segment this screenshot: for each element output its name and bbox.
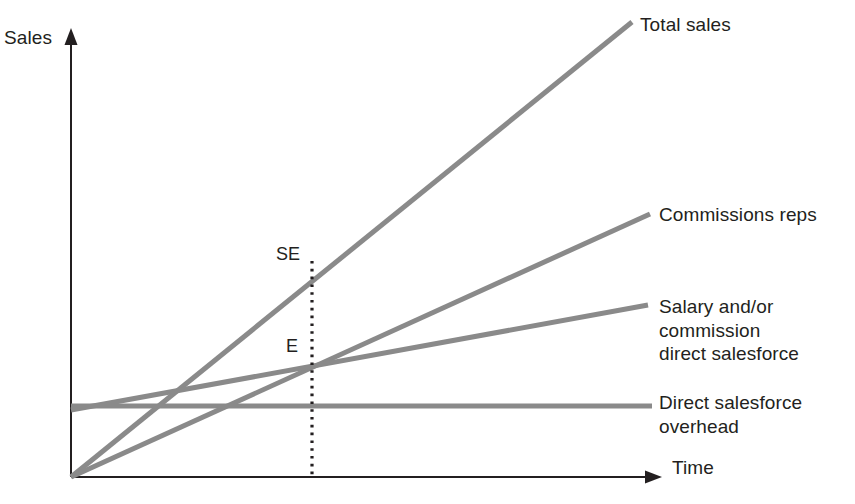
series-line-total-sales: [71, 22, 632, 477]
x-axis-arrowhead: [645, 471, 662, 484]
series-lines-group: [71, 22, 652, 477]
series-label-commissions-reps: Commissions reps: [659, 203, 817, 227]
y-axis-label: Sales: [4, 26, 52, 49]
series-label-salary-commission: Salary and/or commission direct salesfor…: [659, 295, 799, 366]
x-axis-label: Time: [672, 456, 714, 479]
series-label-direct-overhead: Direct salesforce overhead: [659, 391, 802, 438]
annotation-se: SE: [276, 243, 300, 266]
axes-group: [65, 28, 663, 484]
series-line-commissions-reps: [71, 214, 650, 477]
series-label-total-sales: Total sales: [640, 13, 731, 37]
series-line-salary-commission: [71, 305, 648, 410]
sales-vs-time-chart: Sales Time SE E Total sales Commissions …: [0, 0, 855, 504]
y-axis-arrowhead: [65, 28, 78, 45]
annotation-e: E: [286, 335, 298, 358]
